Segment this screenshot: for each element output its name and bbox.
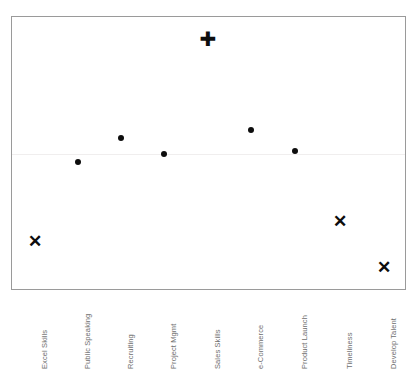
data-point-cross: ✕ bbox=[333, 213, 347, 230]
data-point-plus: ✚ bbox=[200, 29, 217, 49]
x-tick-label: Product Launch bbox=[299, 292, 311, 369]
data-point-dot bbox=[118, 135, 124, 141]
data-point-cross: ✕ bbox=[377, 259, 391, 276]
chart-title bbox=[0, 0, 415, 11]
x-tick-label: Recruiting bbox=[125, 292, 137, 369]
x-tick-label: Public Speaking bbox=[82, 292, 94, 369]
zero-reference-line bbox=[12, 154, 405, 155]
scatter-chart: ✕✚✕✕ Excel SkillsPublic SpeakingRecruiti… bbox=[0, 0, 415, 369]
x-tick-label: e-Commerce bbox=[255, 292, 267, 369]
x-tick-label: Sales Skills bbox=[212, 292, 224, 369]
x-tick-label: Develop Talent bbox=[388, 292, 400, 369]
x-tick-label: Excel Skills bbox=[39, 292, 51, 369]
plot-area: ✕✚✕✕ bbox=[11, 16, 406, 290]
data-point-dot bbox=[75, 159, 81, 165]
data-point-dot bbox=[292, 148, 298, 154]
data-point-dot bbox=[161, 151, 167, 157]
x-tick-label: Project Mgmt bbox=[168, 292, 180, 369]
data-point-dot bbox=[248, 127, 254, 133]
x-axis-label-group: Excel SkillsPublic SpeakingRecruitingPro… bbox=[11, 292, 406, 369]
x-tick-label: Timeliness bbox=[344, 292, 356, 369]
data-point-cross: ✕ bbox=[28, 233, 42, 250]
